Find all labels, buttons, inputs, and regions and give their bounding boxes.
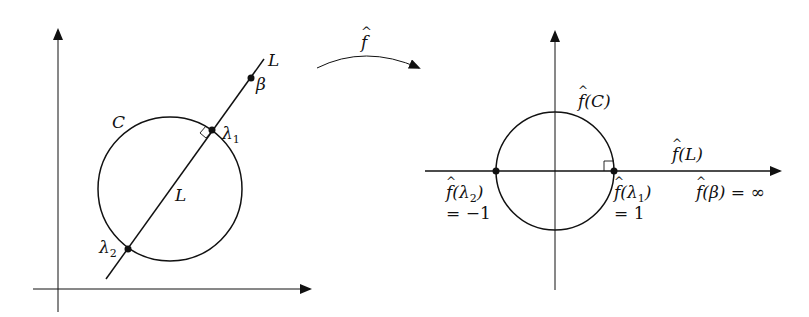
map-arrow [317, 56, 419, 68]
label-l-top: L [267, 50, 279, 70]
label-f-lambda1-value: = 1 [614, 203, 644, 223]
label-lambda1: λ1 [221, 123, 240, 146]
label-l-inside: L [174, 185, 186, 205]
point-f-lambda1 [611, 168, 618, 175]
label-lambda2: λ2 [98, 237, 117, 260]
label-f-lambda2-value: = −1 [446, 203, 491, 223]
right-panel: f(C) f(L) f(β) = ∞ f(λ2) = −1 f(λ1) = 1 … [425, 32, 780, 290]
point-beta [248, 75, 255, 82]
point-lambda2 [125, 246, 132, 253]
label-c: C [112, 112, 125, 132]
map-arrow-group: f ^ [317, 24, 419, 68]
point-f-lambda2 [493, 168, 500, 175]
point-lambda1 [209, 127, 216, 134]
hat-f-lambda1: ^ [614, 175, 624, 189]
hat-f-c: ^ [578, 84, 588, 98]
hat-f-l: ^ [672, 137, 682, 151]
label-beta: β [255, 74, 266, 94]
mobius-map-diagram: C L L β λ1 λ2 f ^ f(C) f(L) f(β) = ∞ f(λ… [0, 0, 809, 317]
hat-f-lambda2: ^ [446, 175, 456, 189]
left-panel: C L L β λ1 λ2 [33, 30, 310, 312]
diagram-canvas: C L L β λ1 λ2 f ^ f(C) f(L) f(β) = ∞ f(λ… [0, 0, 809, 317]
hat-f-map: ^ [361, 24, 372, 39]
hat-f-beta: ^ [696, 175, 706, 189]
